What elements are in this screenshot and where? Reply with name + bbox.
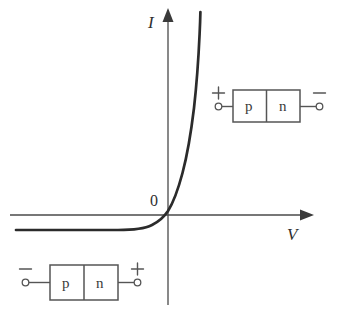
diode-iv-figure: I V 0 p n — [0, 0, 340, 327]
reverse-left-terminal — [22, 279, 29, 286]
reverse-bias-junction-diagram: p n — [20, 263, 144, 300]
diode-iv-curve — [16, 12, 200, 230]
forward-p-region-label: p — [245, 98, 253, 114]
iv-curve-group — [16, 12, 200, 230]
axes-group — [10, 8, 314, 305]
reverse-n-region-label: n — [96, 275, 104, 291]
forward-right-terminal — [316, 103, 323, 110]
v-axis-arrowhead — [300, 210, 314, 221]
v-axis-label: V — [287, 225, 300, 244]
origin-label: 0 — [150, 192, 158, 209]
i-axis-label: I — [147, 13, 155, 32]
forward-bias-junction-diagram: p n — [213, 87, 326, 122]
reverse-right-terminal — [134, 279, 141, 286]
forward-plus-sign — [213, 87, 225, 99]
reverse-plus-sign — [132, 263, 144, 275]
reverse-p-region-label: p — [62, 275, 70, 291]
i-axis-arrowhead — [163, 8, 174, 22]
forward-left-terminal — [215, 103, 222, 110]
forward-n-region-label: n — [279, 98, 287, 114]
figure-canvas: I V 0 p n — [0, 0, 340, 327]
